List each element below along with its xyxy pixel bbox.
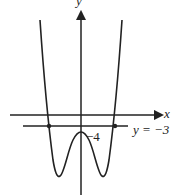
y-axis-label: y [74, 0, 82, 8]
intersection-point-right [113, 124, 117, 128]
x-axis-label: x [163, 106, 170, 121]
quartic-graph-diagram: y x −4 y = −3 [0, 0, 175, 195]
line-label: y = −3 [131, 122, 170, 137]
y-intercept-label: −4 [86, 129, 100, 144]
intersection-point-left [47, 124, 51, 128]
